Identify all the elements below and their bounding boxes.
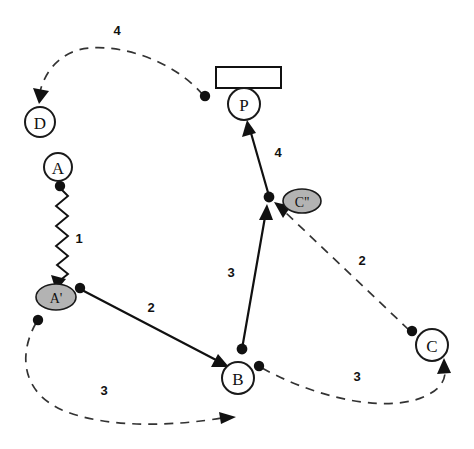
edge-p-to-d	[33, 48, 203, 104]
diagram-canvas: D A A' B C C'' P 1 2 3 4	[0, 0, 474, 449]
diagram-svg: D A A' B C C'' P 1 2 3 4	[0, 0, 474, 449]
edge-a-to-ap-zigzag-path	[56, 188, 68, 282]
edge-weight-cpp-to-p: 4	[274, 145, 282, 160]
edge-p-to-d-arrowhead	[33, 88, 49, 104]
edge-ap-to-b-solid-arrowhead	[211, 354, 229, 367]
edge-c-to-cpp	[274, 202, 409, 330]
edge-b-to-cpp-solid	[242, 204, 273, 349]
edge-ap-to-b-dashed-arrowhead	[219, 412, 236, 424]
edge-weight-ap-to-b: 2	[147, 300, 154, 315]
node-d[interactable]: D	[25, 107, 55, 137]
edge-cpp-to-p-solid	[242, 120, 269, 196]
node-d-label: D	[34, 114, 46, 133]
rectangle-shape	[216, 67, 281, 88]
edge-weight-b-to-c-dash: 3	[353, 369, 360, 384]
edge-weight-a-to-ap: 1	[75, 231, 82, 246]
node-c-label: C	[426, 337, 437, 356]
endpoint-dot-ap-below	[33, 315, 43, 325]
node-p-label: P	[239, 96, 248, 115]
node-p[interactable]: P	[228, 88, 260, 120]
edge-weight-p-to-d: 4	[113, 23, 121, 38]
edge-ap-to-b-dashed	[26, 323, 236, 424]
node-c[interactable]: C	[416, 329, 448, 361]
edge-weight-c-to-cpp: 2	[358, 253, 365, 268]
edge-weight-b-to-cpp: 3	[227, 265, 234, 280]
node-b-label: B	[232, 370, 243, 389]
edge-weight-ap-to-b-dash: 3	[100, 383, 107, 398]
endpoint-dot-b-right	[254, 361, 264, 371]
node-c-double-prime-label: C''	[295, 195, 309, 210]
endpoint-dot-a-bottom	[55, 181, 65, 191]
endpoint-dot-ap-right	[75, 283, 85, 293]
endpoint-dot-c-upleft	[407, 326, 417, 336]
node-a-prime-label: A'	[50, 291, 63, 306]
edge-a-to-ap-zigzag	[51, 188, 68, 291]
node-c-double-prime[interactable]: C''	[283, 189, 321, 213]
edge-ap-to-b-dashed-path	[26, 323, 222, 424]
edge-cpp-to-p-arrowhead	[242, 120, 256, 137]
node-a-label: A	[52, 159, 65, 178]
node-b[interactable]: B	[222, 362, 254, 394]
endpoint-dot-b-top	[237, 344, 248, 355]
node-a-prime[interactable]: A'	[36, 284, 76, 310]
edge-b-to-cpp-solid-path	[242, 217, 265, 349]
edge-c-to-cpp-path	[285, 212, 409, 330]
edge-cpp-to-p-solid-path	[251, 133, 269, 196]
node-a[interactable]: A	[44, 153, 72, 181]
endpoint-dot-near-bar	[200, 91, 210, 101]
edge-p-to-d-path	[40, 48, 203, 95]
endpoint-dot-cpp-left	[264, 192, 275, 203]
edge-b-to-cpp-arrowhead	[259, 204, 273, 220]
